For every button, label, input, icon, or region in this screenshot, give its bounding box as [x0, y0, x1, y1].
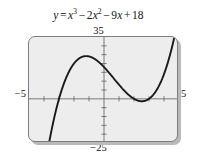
y-max-label: 35	[0, 25, 197, 36]
graph-screen	[28, 36, 178, 142]
x-min-label: −5	[7, 88, 26, 99]
equation-lhs: y	[53, 9, 58, 21]
x-max-label: 5	[181, 88, 195, 99]
equation-term-3-sign: −	[102, 9, 112, 21]
equation-term-4-constant: 18	[132, 9, 144, 21]
equation-term-2-sign: −	[77, 9, 87, 21]
axes-group	[29, 37, 178, 142]
equation-caption: y=x3−2x2−9x+18	[0, 9, 197, 22]
graph-plot-area	[28, 36, 178, 142]
equation-equals: =	[59, 9, 69, 21]
equation-term-4-sign: +	[122, 9, 132, 21]
graph-figure: y=x3−2x2−9x+18 35 −25 −5 5	[0, 0, 197, 156]
cubic-curve	[49, 37, 174, 142]
